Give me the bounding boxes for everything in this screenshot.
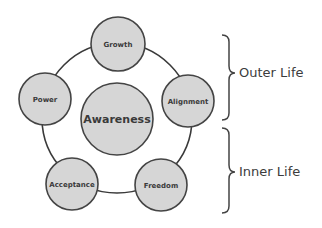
life-cycle-diagram: Awareness Growth Power Alignment Accepta… — [0, 0, 322, 228]
node-acceptance-label: Acceptance — [49, 181, 95, 189]
node-alignment: Alignment — [162, 75, 214, 127]
outer-life-brace — [222, 35, 235, 120]
node-freedom: Freedom — [135, 159, 187, 211]
node-awareness: Awareness — [81, 83, 153, 155]
inner-life-brace — [222, 128, 235, 213]
outer-life-label: Outer Life — [239, 66, 303, 80]
node-power-label: Power — [33, 96, 58, 104]
node-alignment-label: Alignment — [168, 98, 209, 106]
node-acceptance: Acceptance — [46, 158, 98, 210]
node-growth-label: Growth — [104, 41, 133, 49]
node-freedom-label: Freedom — [144, 182, 178, 190]
node-power: Power — [19, 73, 71, 125]
inner-life-label: Inner Life — [239, 165, 300, 179]
node-awareness-label: Awareness — [83, 113, 151, 126]
node-growth: Growth — [91, 17, 145, 71]
